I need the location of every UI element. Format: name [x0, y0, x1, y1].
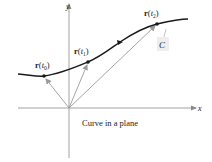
label-r-t1: r(t1) — [74, 46, 89, 57]
vector-r-t0 — [46, 79, 69, 108]
point-r-t2 — [155, 22, 159, 26]
vector-r-t1 — [69, 65, 87, 108]
curve-label-c: C — [159, 40, 166, 50]
x-axis-label: x — [197, 104, 202, 113]
curve-label-leader — [164, 29, 166, 37]
point-r-t0 — [42, 74, 46, 78]
vector-r-t2 — [69, 26, 155, 108]
label-r-t0: r(t0) — [35, 60, 50, 71]
point-r-t1 — [86, 60, 90, 64]
label-r-t2: r(t2) — [144, 8, 159, 19]
curve-in-plane-diagram: y x r(t0) r(t1) r(t2) C Curve in a plane — [0, 0, 212, 162]
figure-caption: Curve in a plane — [82, 118, 138, 128]
y-axis-label: y — [65, 2, 70, 11]
